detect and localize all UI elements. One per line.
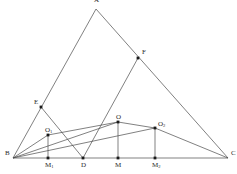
point-label-O2: O2 [158,121,165,128]
point-marker-E [40,106,43,109]
point-marker-O2 [154,127,157,130]
point-label-O1: O1 [45,127,52,134]
segment-side-AC [96,9,228,158]
geometry-diagram-canvas: ABCDEFM1MM2O1OO2 [0,0,237,174]
segment-side-AB [13,9,96,158]
point-label-subscript-O2: 2 [163,123,165,128]
point-label-E: E [34,99,38,106]
point-label-F: F [142,49,146,56]
point-label-B: B [5,150,10,157]
point-marker-M1 [47,157,50,160]
point-marker-O [117,121,120,124]
point-label-M2: M2 [152,162,161,169]
point-marker-M2 [154,157,157,160]
point-label-M: M [115,162,121,169]
segment-layer [13,9,228,158]
point-label-D: D [81,162,86,169]
point-marker-F [137,57,140,60]
segment-chord-BO [13,122,118,158]
point-label-C: C [231,150,236,157]
segment-chord-OO2 [118,122,155,128]
point-label-subscript-M2: 2 [158,164,160,169]
segment-chord-O2C [155,128,228,158]
point-marker-O1 [47,134,50,137]
point-label-O: O [116,114,121,121]
segment-chord-BO2-long [13,128,155,158]
point-layer [40,57,157,160]
point-label-subscript-O1: 1 [50,129,52,134]
segment-cevian-DF [83,58,138,158]
point-marker-M [117,157,120,160]
point-label-M1: M1 [45,162,54,169]
point-label-subscript-M1: 1 [51,164,53,169]
geometry-svg [0,0,237,174]
point-label-A: A [94,0,99,4]
point-marker-D [82,157,85,160]
